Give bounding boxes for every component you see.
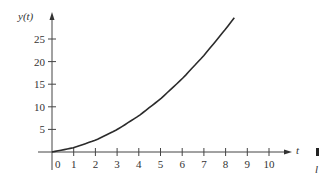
data-curve	[52, 18, 234, 152]
y-tick-label: 20	[34, 56, 46, 68]
x-tick-label: 7	[201, 158, 207, 170]
x-tick-label: 8	[223, 158, 229, 170]
margin-marker	[316, 148, 319, 156]
y-axis-label: y(t)	[17, 10, 34, 23]
x-tick-label: 1	[71, 158, 77, 170]
y-tick-label: 25	[34, 33, 46, 45]
x-tick-label: 0	[55, 158, 61, 170]
x-tick-label: 10	[264, 158, 276, 170]
x-axis-arrow-icon	[284, 150, 292, 155]
ticks: 012345678910510152025	[34, 33, 275, 170]
y-tick-label: 15	[34, 78, 46, 90]
y-tick-label: 5	[40, 123, 46, 135]
x-tick-label: 5	[158, 158, 164, 170]
x-tick-label: 9	[245, 158, 251, 170]
x-tick-label: 4	[136, 158, 142, 170]
corner-note: l	[315, 163, 318, 175]
chart: 012345678910510152025 y(t) t l	[0, 0, 322, 180]
x-axis-label: t	[296, 144, 300, 156]
x-tick-label: 3	[114, 158, 120, 170]
x-tick-label: 6	[179, 158, 185, 170]
x-tick-label: 2	[93, 158, 99, 170]
y-tick-label: 10	[34, 101, 46, 113]
y-axis-arrow-icon	[50, 12, 55, 20]
